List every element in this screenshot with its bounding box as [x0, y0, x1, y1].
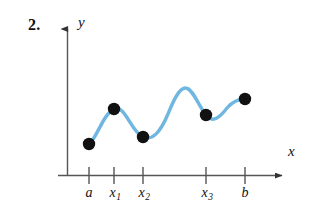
- problem-number-label: 2.: [28, 17, 41, 33]
- y-axis-label: y: [78, 15, 85, 30]
- tick-label-base: b: [242, 185, 249, 200]
- tick-label-x2: x2: [139, 186, 150, 200]
- tick-label-sub: 1: [116, 192, 121, 202]
- marked-point: [239, 93, 251, 105]
- marked-point: [83, 138, 95, 150]
- tick-label-sub: 2: [145, 192, 150, 202]
- x-axis-label: x: [288, 144, 295, 159]
- function-curve: [89, 88, 245, 144]
- tick-label-b: b: [242, 186, 249, 200]
- marked-point-group: [83, 93, 251, 150]
- figure-container: 2. y x a x1 x2 x3 b: [0, 0, 320, 223]
- tick-label-base: x: [202, 185, 208, 200]
- tick-label-base: a: [86, 185, 93, 200]
- graph-canvas: [0, 0, 320, 223]
- tick-label-base: x: [139, 185, 145, 200]
- marked-point: [200, 109, 212, 121]
- tick-label-x3: x3: [202, 186, 213, 200]
- tick-label-x1: x1: [110, 186, 121, 200]
- marked-point: [137, 131, 149, 143]
- tick-label-sub: 3: [208, 192, 213, 202]
- tick-label-a: a: [86, 186, 93, 200]
- marked-point: [108, 103, 120, 115]
- tick-label-base: x: [110, 185, 116, 200]
